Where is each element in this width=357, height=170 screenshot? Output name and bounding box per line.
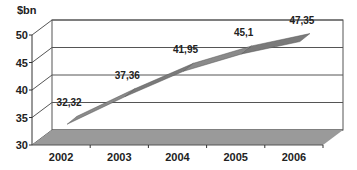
data-label: 37,36	[115, 70, 140, 81]
y-tick-label: 35	[16, 112, 28, 124]
side-gridline	[32, 48, 52, 63]
y-tick-label: 40	[16, 84, 28, 96]
x-tick-label: 2006	[282, 151, 306, 163]
data-label: 41,95	[173, 44, 198, 55]
data-label: 45,1	[234, 27, 254, 38]
line-chart-3d: 30354045502002200320042005200632,3237,36…	[0, 0, 357, 170]
x-tick-label: 2002	[49, 151, 73, 163]
data-label: 47,35	[289, 15, 314, 26]
data-label: 32,32	[57, 97, 82, 108]
y-axis-unit-label: $bn	[17, 4, 37, 16]
y-tick-label: 45	[16, 57, 28, 69]
side-gridline	[32, 103, 52, 118]
x-tick-label: 2005	[223, 151, 247, 163]
chart-floor	[32, 130, 343, 145]
y-tick-label: 30	[16, 139, 28, 151]
y-tick-label: 50	[16, 29, 28, 41]
x-tick-label: 2004	[165, 151, 190, 163]
side-gridline	[32, 20, 52, 35]
x-tick-label: 2003	[107, 151, 131, 163]
side-gridline	[32, 75, 52, 90]
